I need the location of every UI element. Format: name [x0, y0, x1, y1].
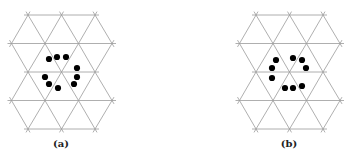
lattice-edge [238, 40, 240, 43]
lattice-edge [12, 101, 31, 133]
lattice-edge [340, 101, 342, 104]
lattice-edge [273, 101, 292, 133]
lattice-edge [340, 44, 342, 47]
lattice-edge [273, 12, 292, 44]
lattice-edge [323, 72, 340, 101]
lattice-edge [307, 101, 326, 133]
lattice-edge [323, 44, 340, 73]
lattice-edge [26, 101, 45, 133]
lattice-edge [93, 101, 112, 133]
lattice-edge [238, 97, 240, 100]
lattice-diagram-a [0, 0, 124, 140]
particle-dot [269, 65, 275, 71]
particle-dot [299, 57, 305, 63]
lattice-edge [45, 101, 64, 133]
lattice-edge [288, 12, 307, 44]
lattice-edge [95, 44, 112, 73]
particle-dot [74, 65, 80, 71]
lattice-edge [10, 44, 12, 47]
particle-dot [282, 85, 288, 91]
lattice-edge [95, 72, 112, 101]
lattice-edge [340, 97, 342, 100]
lattice-edge [10, 40, 12, 43]
lattice-edge [238, 44, 240, 47]
lattice-edge [240, 44, 257, 73]
lattice-edge [93, 12, 112, 44]
caption-a: (a) [41, 138, 81, 149]
panel-b [228, 0, 352, 157]
lattice-edge [112, 101, 114, 104]
particle-dot [290, 85, 296, 91]
lattice-edge [240, 101, 259, 133]
lattice-edge [240, 72, 257, 101]
particle-dot [42, 74, 48, 80]
caption-b: (b) [269, 138, 309, 149]
lattice-edge [60, 101, 79, 133]
lattice-edge [240, 12, 259, 44]
lattice-edge [28, 44, 45, 73]
lattice-edge [340, 40, 342, 43]
lattice-diagram-b [228, 0, 352, 140]
lattice-edge [12, 12, 31, 44]
lattice-edge [307, 12, 326, 44]
particle-dot [303, 65, 309, 71]
lattice-edge [321, 12, 340, 44]
particle-dot [55, 85, 61, 91]
particle-dot [269, 75, 275, 81]
particle-dot [63, 54, 69, 60]
lattice-edge [10, 101, 12, 104]
lattice-edge [307, 72, 324, 101]
lattice-edge [10, 97, 12, 100]
particle-dot [54, 54, 60, 60]
lattice-edge [321, 101, 340, 133]
lattice-edge [45, 12, 64, 44]
particle-dot [46, 56, 52, 62]
lattice-edge [79, 101, 98, 133]
lattice-edge [112, 40, 114, 43]
particle-dot [290, 55, 296, 61]
particle-dot [46, 81, 52, 87]
lattice-edge [60, 12, 79, 44]
lattice-edge [112, 44, 114, 47]
lattice-edge [79, 72, 96, 101]
particle-dot [71, 81, 77, 87]
lattice-edge [254, 101, 273, 133]
panel-a [0, 0, 124, 157]
lattice-edge [12, 44, 29, 73]
lattice-edge [12, 72, 29, 101]
lattice-edge [254, 12, 273, 44]
particle-dot [273, 57, 279, 63]
lattice-edge [79, 44, 96, 73]
particle-dot [74, 74, 80, 80]
lattice-edge [112, 97, 114, 100]
lattice-edge [79, 12, 98, 44]
lattice-edge [238, 101, 240, 104]
lattice-edge [288, 101, 307, 133]
particle-dot [299, 83, 305, 89]
lattice-edge [26, 12, 45, 44]
